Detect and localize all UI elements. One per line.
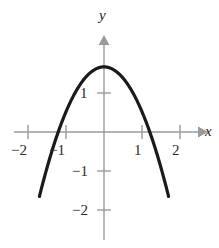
y-tick-label-minus2: −2 bbox=[72, 203, 88, 218]
parabola-graph-figure: y x −2 −1 1 2 1 −1 −2 bbox=[0, 0, 219, 248]
x-tick-label-1: 1 bbox=[134, 143, 142, 158]
y-axis-arrowhead bbox=[99, 35, 110, 45]
y-tick-label-minus1: −1 bbox=[72, 164, 88, 179]
y-axis-label: y bbox=[99, 8, 106, 23]
x-tick-label-minus2: −2 bbox=[11, 143, 27, 158]
x-tick-label-2: 2 bbox=[172, 143, 180, 158]
x-tick-label-minus1: −1 bbox=[49, 143, 65, 158]
plot-canvas bbox=[0, 0, 219, 248]
y-tick-label-1: 1 bbox=[80, 86, 88, 101]
x-axis-label: x bbox=[205, 124, 212, 139]
